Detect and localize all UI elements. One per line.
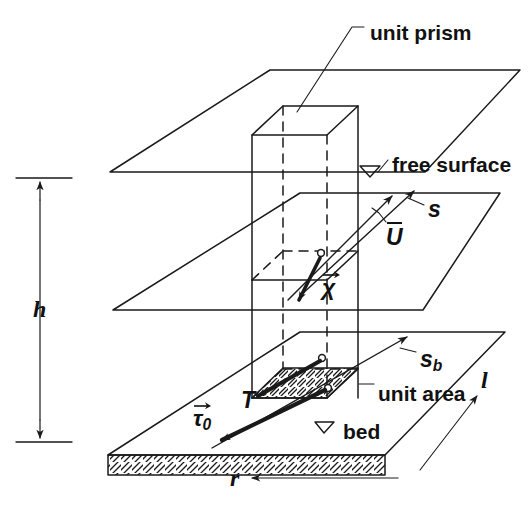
mean-velocity-arrow [288, 196, 392, 300]
l-axis-arrow [420, 396, 477, 470]
chi-arrow [299, 250, 324, 300]
bed-slope-label: sb [420, 348, 442, 374]
bed-slope-symbol: s [420, 346, 433, 372]
unit-area-patch [252, 368, 358, 398]
overbar-group: U [386, 226, 403, 249]
bed-hatch-strip [108, 455, 385, 475]
unit-area-label: unit area [378, 383, 466, 404]
vector-arrow-group-tau: τ [193, 407, 202, 430]
tau-symbol: τ [193, 405, 202, 431]
tau-zero-label: τ 0 [193, 407, 211, 433]
diagram-canvas: unit prism free surface unit area bed h … [0, 0, 529, 526]
mean-velocity-symbol: U [386, 224, 403, 250]
unit-prism [252, 106, 358, 398]
tau-subscript: 0 [202, 416, 211, 433]
r-axis-label: r [230, 466, 239, 490]
surface-slope-label: s [428, 198, 441, 221]
bed-slope-subscript: b [433, 357, 443, 374]
bed-label: bed [343, 421, 380, 442]
vector-arrow-group: χ [322, 276, 335, 299]
mean-velocity-label: U [386, 226, 403, 249]
chi-vector-label: χ [322, 276, 335, 299]
diagram-vector-layer [0, 0, 529, 526]
free-surface-label: free surface [392, 154, 511, 175]
depth-h-label: h [33, 297, 46, 321]
unit-prism-label: unit prism [370, 22, 472, 43]
chi-symbol: χ [322, 274, 335, 300]
overbar-glyph [387, 222, 402, 224]
stress-T-label: T [241, 389, 255, 412]
l-axis-label: l [481, 368, 488, 392]
